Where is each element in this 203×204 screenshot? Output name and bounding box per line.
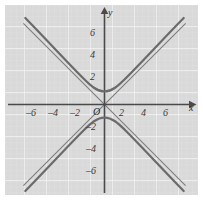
y-tick-label--2: –2 [86, 122, 96, 132]
x-axis-label: x [189, 103, 193, 113]
y-axis-label: y [108, 8, 112, 18]
x-tick-label-4: 4 [141, 108, 146, 118]
plot-area [5, 5, 198, 195]
y-tick-label-2: 2 [90, 72, 95, 82]
y-tick-label-6: 6 [90, 28, 95, 38]
graph-canvas [5, 5, 198, 195]
x-tick-label-2: 2 [119, 108, 124, 118]
y-tick-label--6: –6 [86, 166, 96, 176]
origin-label: O [93, 107, 100, 117]
x-tick-label--2: –2 [70, 108, 80, 118]
hyperbola-graph-figure: –6 –4 –2 2 4 6 6 4 2 –2 –4 –6 O x y [0, 0, 203, 204]
y-tick-label--4: –4 [86, 144, 96, 154]
x-tick-label--4: –4 [48, 108, 58, 118]
y-tick-label-4: 4 [90, 50, 95, 60]
x-tick-label-6: 6 [163, 108, 168, 118]
x-tick-label--6: –6 [26, 108, 36, 118]
